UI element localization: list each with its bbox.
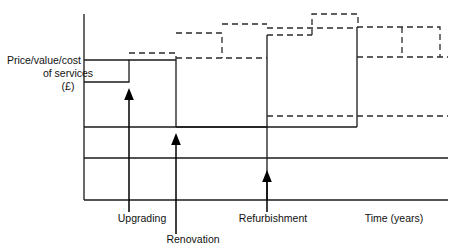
renovation-arrow-head <box>171 133 181 145</box>
dashed-line-group <box>129 14 448 116</box>
refurbishment-arrow-head <box>262 170 272 182</box>
event-label-renovation: Renovation <box>166 233 219 245</box>
solid-line-group <box>84 14 448 200</box>
event-label-upgrading: Upgrading <box>118 212 167 224</box>
y-axis-label-line2: of services <box>43 67 93 79</box>
upgrading-arrow-head <box>124 88 134 100</box>
upgrading-step <box>84 60 176 82</box>
refurbishment-peak-box <box>312 14 358 35</box>
upgrading-projection-box <box>129 53 176 60</box>
x-axis-label: Time (years) <box>365 212 424 224</box>
diagram-canvas: Price/value/cost of services (£) Upgradi… <box>0 0 459 248</box>
y-axis-label-line1: Price/value/cost <box>7 54 81 66</box>
right-projection-top <box>357 27 440 57</box>
y-axis-label-line3: (£) <box>62 80 75 92</box>
renovation-projection-box <box>176 33 222 58</box>
intervention-arrow-refurbishment <box>262 170 272 212</box>
intervention-arrow-upgrading <box>124 88 134 212</box>
event-label-refurbishment: Refurbishment <box>239 212 307 224</box>
intervention-arrow-renovation <box>171 133 181 234</box>
lifecycle-cost-diagram: Price/value/cost of services (£) Upgradi… <box>0 0 459 248</box>
